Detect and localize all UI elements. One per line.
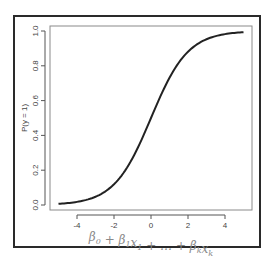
figure-frame — [14, 16, 260, 247]
logistic-chart: 0.00.20.40.60.81.0 -4-2024 P(y = 1) β0 +… — [0, 0, 274, 263]
y-tick-label: 0.8 — [31, 60, 40, 72]
x-tick-label: -4 — [73, 221, 81, 230]
x-tick-label: -2 — [110, 221, 118, 230]
logistic-curve — [59, 32, 244, 204]
x-tick-label: 4 — [223, 221, 228, 230]
y-tick-label: 0.4 — [31, 129, 40, 141]
y-axis-label: P(y = 1) — [20, 104, 29, 133]
y-tick-label: 0.0 — [31, 199, 40, 211]
y-tick-label: 0.6 — [31, 94, 40, 106]
y-axis: 0.00.20.40.60.81.0 — [31, 25, 45, 211]
y-tick-label: 0.2 — [31, 164, 40, 176]
x-tick-label: 0 — [149, 221, 154, 230]
y-tick-label: 1.0 — [31, 25, 40, 37]
x-tick-label: 2 — [186, 221, 191, 230]
x-axis-label: β0 + β1x1 + … + βkxk — [88, 230, 214, 258]
x-axis: -4-2024 — [73, 215, 227, 230]
